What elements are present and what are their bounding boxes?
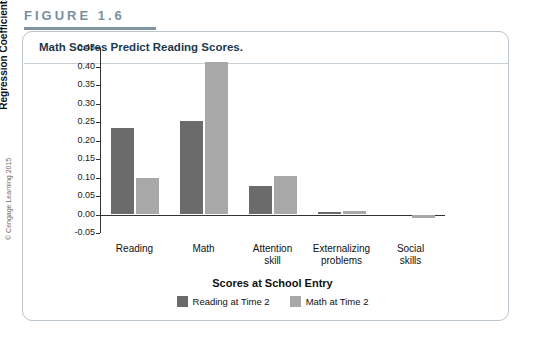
x-category-label-line: Attention: [238, 243, 307, 255]
x-axis-title: Scores at School Entry: [100, 277, 445, 289]
y-tick-label: 0.30: [77, 98, 95, 108]
x-category-label-line: Social: [376, 243, 445, 255]
x-category-label-line: Reading: [100, 243, 169, 255]
legend-swatch: [290, 296, 301, 307]
x-category-label: Attentionskill: [238, 243, 307, 267]
figure-rule: [24, 27, 156, 30]
legend-swatch: [177, 296, 188, 307]
x-category-label-line: problems: [307, 255, 376, 267]
bar: [343, 211, 366, 214]
y-tick-label: 0.35: [77, 79, 95, 89]
x-category-label: Reading: [100, 243, 169, 255]
x-category-label-line: Externalizing: [307, 243, 376, 255]
bar-group: [238, 48, 307, 233]
bar: [180, 121, 203, 214]
x-category-label: Externalizingproblems: [307, 243, 376, 267]
legend-label: Reading at Time 2: [193, 296, 270, 307]
bar-group: [307, 48, 376, 233]
x-category-label-line: Math: [169, 243, 238, 255]
y-tick-label: 0.15: [77, 153, 95, 163]
x-category-label: Socialskills: [376, 243, 445, 267]
bar-group: [376, 48, 445, 233]
x-category-label: Math: [169, 243, 238, 255]
bar: [136, 178, 159, 214]
y-tick-label: -0.05: [74, 227, 95, 237]
bar-group: [100, 48, 169, 233]
x-category-label-line: skills: [376, 255, 445, 267]
y-tick-label: 0.00: [77, 209, 95, 219]
bar: [111, 128, 134, 215]
chart-legend: Reading at Time 2Math at Time 2: [100, 296, 445, 307]
bar: [205, 62, 228, 215]
plot-area: -0.050.000.050.100.150.200.250.300.350.4…: [100, 48, 445, 233]
y-tick-label: 0.45: [77, 42, 95, 52]
bar: [318, 212, 341, 215]
y-tick-label: 0.10: [77, 172, 95, 182]
y-tick-label: 0.20: [77, 135, 95, 145]
bar: [249, 186, 272, 214]
copyright-notice: © Cengage Learning 2015: [5, 158, 12, 240]
legend-item: Reading at Time 2: [177, 296, 270, 307]
bar: [412, 215, 435, 218]
y-axis-title: Standardized Regression Coefficients: [0, 0, 10, 113]
y-tick-mark: [96, 233, 100, 234]
bar-group: [169, 48, 238, 233]
legend-item: Math at Time 2: [290, 296, 369, 307]
y-tick-label: 0.40: [77, 61, 95, 71]
y-tick-label: 0.25: [77, 116, 95, 126]
figure-label: FIGURE 1.6: [24, 8, 125, 23]
legend-label: Math at Time 2: [306, 296, 369, 307]
y-tick-label: 0.05: [77, 190, 95, 200]
x-category-label-line: skill: [238, 255, 307, 267]
bar: [274, 176, 297, 215]
